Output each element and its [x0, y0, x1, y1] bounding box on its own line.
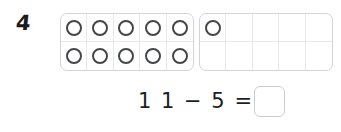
frame-cell[interactable] [306, 42, 332, 70]
counter-icon [92, 20, 108, 36]
frame-cell[interactable] [87, 42, 113, 70]
frame-cell[interactable] [87, 14, 113, 42]
counter-icon [66, 20, 82, 36]
frame-cell[interactable] [167, 42, 193, 70]
frame-cell[interactable] [200, 42, 226, 70]
counter-icon [172, 20, 188, 36]
frame-cell[interactable] [306, 14, 332, 42]
frame-cell[interactable] [253, 42, 279, 70]
frame-cell[interactable] [226, 14, 252, 42]
left-ten-frame [60, 13, 194, 71]
counter-icon [172, 48, 188, 64]
frame-cell[interactable] [140, 14, 166, 42]
equation-row: 1 1 − 5 = [138, 84, 285, 118]
answer-input-box[interactable] [254, 86, 285, 117]
frame-cell[interactable] [140, 42, 166, 70]
frame-cell[interactable] [61, 42, 87, 70]
counter-icon [145, 48, 161, 64]
counter-icon [66, 48, 82, 64]
counter-icon [205, 20, 221, 36]
frame-cell[interactable] [114, 42, 140, 70]
frame-cell[interactable] [200, 14, 226, 42]
frame-cell[interactable] [226, 42, 252, 70]
frame-cell[interactable] [167, 14, 193, 42]
equation-expression: 1 1 − 5 = [138, 91, 253, 112]
ten-frames-row [60, 13, 333, 71]
frame-cell[interactable] [279, 14, 305, 42]
worksheet-problem: 4 1 1 − 5 = [0, 0, 341, 132]
question-number: 4 [15, 13, 32, 34]
right-ten-frame [199, 13, 333, 71]
counter-icon [145, 20, 161, 36]
counter-icon [118, 48, 134, 64]
counter-icon [92, 48, 108, 64]
frame-cell[interactable] [279, 42, 305, 70]
counter-icon [118, 20, 134, 36]
frame-cell[interactable] [253, 14, 279, 42]
frame-cell[interactable] [61, 14, 87, 42]
frame-cell[interactable] [114, 14, 140, 42]
